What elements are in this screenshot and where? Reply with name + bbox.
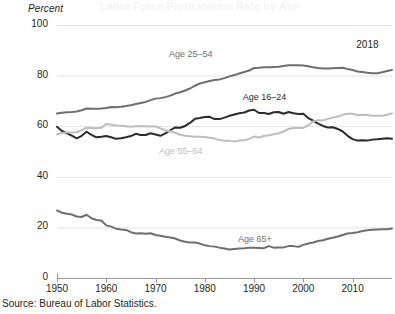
series-line-age-25-54 — [57, 65, 392, 113]
series-line-age-65- — [57, 210, 392, 249]
end-year-annotation: 2018 — [356, 39, 378, 50]
plot-area — [0, 0, 395, 314]
series-label-age-55-64: Age 55–64 — [159, 146, 203, 156]
source-note: Source: Bureau of Labor Statistics. — [2, 298, 157, 309]
series-label-age-25-54: Age 25–54 — [169, 49, 213, 59]
series-label-age-65-: Age 65+ — [238, 234, 272, 244]
chart-figure: Labor Force Participation Rate by Age Pe… — [0, 0, 395, 314]
series-label-age-16-24: Age 16–24 — [243, 92, 287, 102]
